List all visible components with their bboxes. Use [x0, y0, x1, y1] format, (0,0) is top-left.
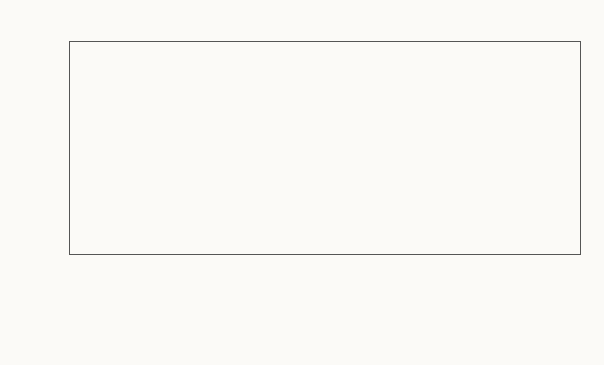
plot-area — [69, 41, 581, 255]
chart-legend — [0, 10, 604, 34]
chart-canvas — [0, 0, 604, 365]
